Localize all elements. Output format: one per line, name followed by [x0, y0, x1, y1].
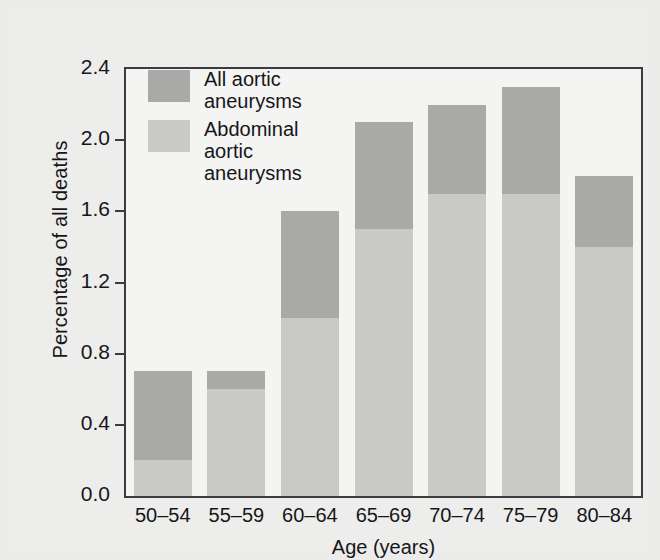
x-axis-title: Age (years) — [124, 536, 643, 559]
bar-segment-abdominal-aortic-aneurysms — [134, 460, 192, 496]
bar-stack — [207, 371, 265, 496]
x-axis-tick-label: 60–64 — [273, 504, 347, 527]
x-axis-tick-label: 70–74 — [420, 504, 494, 527]
legend-item-abdominal-aortic-aneurysms: Abdominal aortic aneurysms — [148, 118, 388, 184]
figure-panel: Percentage of all deaths 0.00.40.81.21.6… — [12, 10, 648, 550]
x-axis-tick-label: 55–59 — [199, 504, 273, 527]
bar-stack — [281, 211, 339, 496]
legend-label-abdominal-line3: aneurysms — [204, 162, 302, 184]
y-axis-tick-label: 1.2 — [54, 269, 110, 293]
bar-segment-abdominal-aortic-aneurysms — [281, 318, 339, 496]
y-axis-title: Percentage of all deaths — [49, 50, 72, 450]
legend-item-all-aortic-aneurysms: All aortic aneurysms — [148, 68, 388, 112]
chart-legend: All aortic aneurysms Abdominal aortic an… — [148, 68, 388, 190]
y-axis-tick-label: 1.6 — [54, 197, 110, 221]
bar-stack — [428, 105, 486, 496]
legend-label-all-aortic-line1: All aortic — [204, 68, 281, 90]
legend-swatch-icon-abdominal — [148, 120, 190, 152]
x-axis-tick-label: 65–69 — [347, 504, 421, 527]
legend-swatch-icon-all-aortic — [148, 70, 190, 102]
bar-segment-abdominal-aortic-aneurysms — [207, 389, 265, 496]
bar-stack — [575, 176, 633, 496]
bar-stack — [502, 87, 560, 496]
y-axis-tick-label: 0.4 — [54, 411, 110, 435]
y-axis-tick-label: 0.0 — [54, 482, 110, 506]
x-axis-tick-label: 50–54 — [126, 504, 200, 527]
legend-label-abdominal-line1: Abdominal — [204, 118, 299, 140]
y-axis-tick-label: 0.8 — [54, 340, 110, 364]
legend-label-abdominal: Abdominal aortic aneurysms — [204, 118, 302, 184]
y-axis-tick-label: 2.4 — [54, 55, 110, 79]
chart-figure: Percentage of all deaths 0.00.40.81.21.6… — [0, 0, 660, 560]
legend-label-abdominal-line2: aortic — [204, 140, 253, 162]
legend-label-all-aortic-line2: aneurysms — [204, 90, 302, 112]
y-axis-tick-label: 2.0 — [54, 126, 110, 150]
x-axis-tick-labels: 50–5455–5960–6465–6970–7475–7980–84 — [124, 504, 643, 534]
x-axis-tick-label: 75–79 — [494, 504, 568, 527]
bar-segment-abdominal-aortic-aneurysms — [502, 194, 560, 496]
bar-segment-abdominal-aortic-aneurysms — [575, 247, 633, 496]
bar-segment-abdominal-aortic-aneurysms — [355, 229, 413, 496]
x-axis-tick-label: 80–84 — [567, 504, 641, 527]
bar-segment-abdominal-aortic-aneurysms — [428, 194, 486, 496]
bar-stack — [134, 371, 192, 496]
legend-label-all-aortic: All aortic aneurysms — [204, 68, 302, 112]
